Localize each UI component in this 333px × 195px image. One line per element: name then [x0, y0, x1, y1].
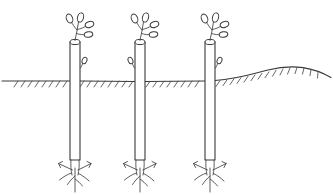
cutting-2: [124, 12, 160, 192]
cutting-1-sprout-stalk: [75, 22, 79, 41]
cutting-1: [59, 12, 95, 192]
cutting-2-leaf-low-right: [149, 31, 158, 38]
planted-cuttings-illustration: [0, 0, 333, 195]
soil-hatch-left: [14, 81, 67, 87]
cutting-1-leaf-low-right: [84, 31, 93, 38]
cutting-3-stem-bud-leaf: [216, 56, 223, 64]
cutting-3-roots: [194, 160, 227, 192]
illustration-canvas: Three planted stem cuttings with sprouts…: [0, 0, 333, 195]
cutting-2-stem: [135, 42, 145, 160]
cutting-1-stem: [70, 42, 80, 160]
cutting-3-sprout-stalk: [210, 22, 214, 41]
soil-surface-line: [2, 67, 331, 82]
cutting-1-leaf-mid-right: [84, 20, 94, 28]
cutting-2-sprout-branch-a: [137, 22, 143, 30]
cutting-3-stem: [205, 42, 215, 160]
cutting-3-leaf-low-right: [219, 31, 228, 38]
cutting-2-leaf-top-right: [141, 12, 149, 23]
cutting-3: [194, 12, 230, 192]
cutting-2-leaf-top-left: [130, 13, 139, 24]
soil-hatch-middle: [80, 81, 133, 87]
cutting-2-stem-bud-leaf: [127, 56, 134, 64]
cutting-1-leaf-top-right: [76, 12, 84, 23]
cutting-3-leaf-top-left: [200, 13, 209, 24]
cutting-3-sprout-branch-a: [207, 22, 213, 30]
cutting-2-leaf-mid-right: [149, 20, 159, 28]
cutting-1-leaf-top-left: [65, 13, 74, 24]
cutting-3-leaf-top-right: [211, 12, 219, 23]
cutting-1-sprout-branch-a: [72, 22, 78, 30]
cutting-1-roots: [59, 160, 92, 192]
cutting-2-roots: [124, 160, 157, 192]
ground-group: [2, 67, 331, 87]
cutting-2-sprout-stalk: [140, 22, 144, 41]
cutting-1-stem-bud-leaf: [81, 56, 88, 64]
cutting-3-leaf-mid-right: [219, 20, 229, 28]
